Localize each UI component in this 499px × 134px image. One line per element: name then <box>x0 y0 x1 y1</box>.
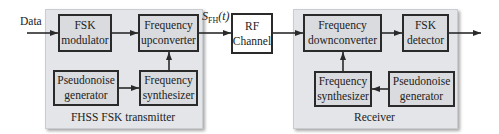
block-line: generator <box>57 88 115 103</box>
signal-subscript: FH <box>208 16 218 25</box>
rf-channel-block: RFChannel <box>231 13 273 54</box>
rx-fsk-detector-block: FSKdetector <box>402 14 449 52</box>
block-line: upconverter <box>141 33 196 48</box>
block-line: detector <box>407 33 444 48</box>
block-line: generator <box>393 89 451 104</box>
rx-frequency-downconverter-block: Frequencydownconverter <box>303 14 382 52</box>
signal-arg: (t) <box>218 9 229 23</box>
signal-label-sfh: SFH(t) <box>202 9 230 25</box>
block-line: synthesizer <box>143 88 195 103</box>
rx-pseudonoise-generator-block: Pseudonoisegenerator <box>388 71 455 107</box>
block-line: RF <box>233 19 271 34</box>
tx-fsk-modulator-block: FSKmodulator <box>58 14 112 52</box>
block-line: Channel <box>233 34 271 49</box>
block-line: downconverter <box>308 33 377 48</box>
tx-pseudonoise-generator-block: Pseudonoisegenerator <box>53 70 119 106</box>
tx-frequency-upconverter-block: Frequencyupconverter <box>138 14 199 52</box>
block-line: Frequency <box>308 18 377 33</box>
block-line: synthesizer <box>317 89 369 104</box>
tx-frequency-synthesizer-block: Frequencysynthesizer <box>139 70 198 106</box>
block-line: Frequency <box>141 18 196 33</box>
block-line: FSK <box>61 18 108 33</box>
block-line: FSK <box>407 18 444 33</box>
data-input-label: Data <box>20 15 42 27</box>
block-line: Frequency <box>143 73 195 88</box>
rx-frequency-synthesizer-block: Frequencysynthesizer <box>314 71 372 107</box>
block-line: Pseudonoise <box>57 73 115 88</box>
block-line: Frequency <box>317 74 369 89</box>
block-line: Pseudonoise <box>393 74 451 89</box>
block-line: modulator <box>61 33 108 48</box>
